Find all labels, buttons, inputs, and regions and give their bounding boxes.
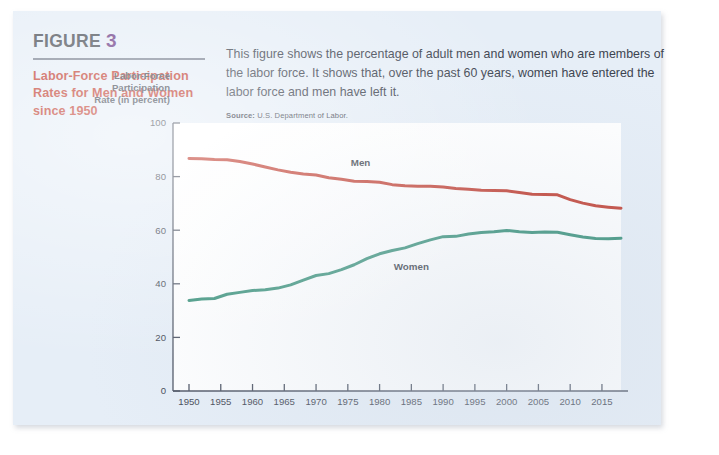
y-tick-label: 80: [155, 171, 166, 182]
x-tick-label: 1965: [274, 396, 295, 407]
x-tick-label: 1950: [178, 396, 199, 407]
y-axis-title: Labor-ForceParticipationRate (in percent…: [94, 70, 170, 105]
y-axis-title-line: Labor-Force: [114, 70, 170, 81]
plot-background: [173, 123, 621, 391]
x-tick-label: 1975: [337, 396, 358, 407]
x-tick-label: 1980: [369, 396, 390, 407]
line-chart: Labor-ForceParticipationRate (in percent…: [13, 11, 661, 425]
x-tick-label: 2010: [560, 396, 581, 407]
series-label-men: Men: [351, 157, 371, 168]
y-tick-label: 40: [155, 278, 166, 289]
figure-card: FIGURE 3 Labor-Force Participation Rates…: [13, 11, 661, 425]
y-tick-label: 100: [150, 117, 166, 128]
plot-background-group: [173, 123, 621, 391]
x-tick-label: 2000: [496, 396, 517, 407]
x-tick-label: 1985: [401, 396, 422, 407]
series-label-women: Women: [394, 261, 429, 272]
x-tick-label: 1995: [464, 396, 485, 407]
y-axis-title-line: Participation: [112, 82, 170, 93]
x-tick-label: 1960: [242, 396, 263, 407]
x-tick-label: 1955: [210, 396, 231, 407]
chart-container: Labor-ForceParticipationRate (in percent…: [13, 11, 661, 425]
x-tick-label: 2015: [591, 396, 612, 407]
x-tick-label: 1970: [305, 396, 326, 407]
y-tick-label: 60: [155, 225, 166, 236]
y-axis-title-line: Rate (in percent): [94, 94, 170, 105]
y-tick-label: 0: [161, 385, 166, 396]
y-tick-label: 20: [155, 332, 166, 343]
x-tick-label: 2005: [528, 396, 549, 407]
x-tick-label: 1990: [432, 396, 453, 407]
